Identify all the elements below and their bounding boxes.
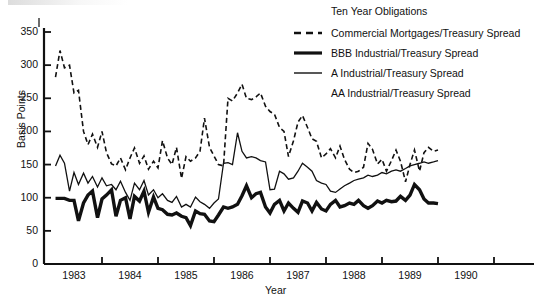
spread-chart: 050100150200250300350 198319841985198619…	[0, 0, 537, 303]
x-tick-label-1983: 1983	[54, 270, 94, 281]
legend-item-label: BBB Industrial/Treasury Spread	[331, 47, 478, 59]
dashed-line-marker	[293, 27, 323, 39]
x-tick-label-1984: 1984	[110, 270, 150, 281]
y-axis-title: Basis Points	[15, 90, 27, 148]
x-tick-label-1985: 1985	[166, 270, 206, 281]
legend-item-1: BBB Industrial/Treasury Spread	[293, 44, 537, 61]
legend-item-label: A Industrial/Treasury Spread	[331, 67, 464, 79]
x-tick-label-1988: 1988	[334, 270, 374, 281]
x-tick-label-1987: 1987	[278, 270, 318, 281]
y-tick-label-350: 350	[0, 26, 38, 37]
series-line-1	[56, 184, 438, 225]
legend-item-3: AA Industrial/Treasury Spread	[293, 84, 537, 101]
chart-legend: Ten Year Obligations Commercial Mortgage…	[293, 5, 537, 104]
legend-item-2: A Industrial/Treasury Spread	[293, 64, 537, 81]
y-tick-label-50: 50	[0, 225, 38, 236]
legend-item-label: Commercial Mortgages/Treasury Spread	[331, 27, 520, 39]
legend-item-0: Commercial Mortgages/Treasury Spread	[293, 24, 537, 41]
legend-items: Commercial Mortgages/Treasury SpreadBBB …	[293, 24, 537, 101]
y-tick-label-100: 100	[0, 192, 38, 203]
x-axis-title: Year	[265, 284, 286, 296]
legend-marker-empty	[293, 87, 323, 99]
thick-solid-line-marker	[293, 47, 323, 59]
x-tick-label-1990: 1990	[446, 270, 486, 281]
x-tick-label-1989: 1989	[390, 270, 430, 281]
legend-item-label: AA Industrial/Treasury Spread	[331, 87, 471, 99]
x-tick-label-1986: 1986	[222, 270, 262, 281]
legend-title: Ten Year Obligations	[331, 5, 537, 17]
y-axis-title-wrap: Basis Points	[11, 69, 29, 169]
thin-solid-line-marker	[293, 67, 323, 79]
y-tick-label-0: 0	[0, 258, 38, 269]
